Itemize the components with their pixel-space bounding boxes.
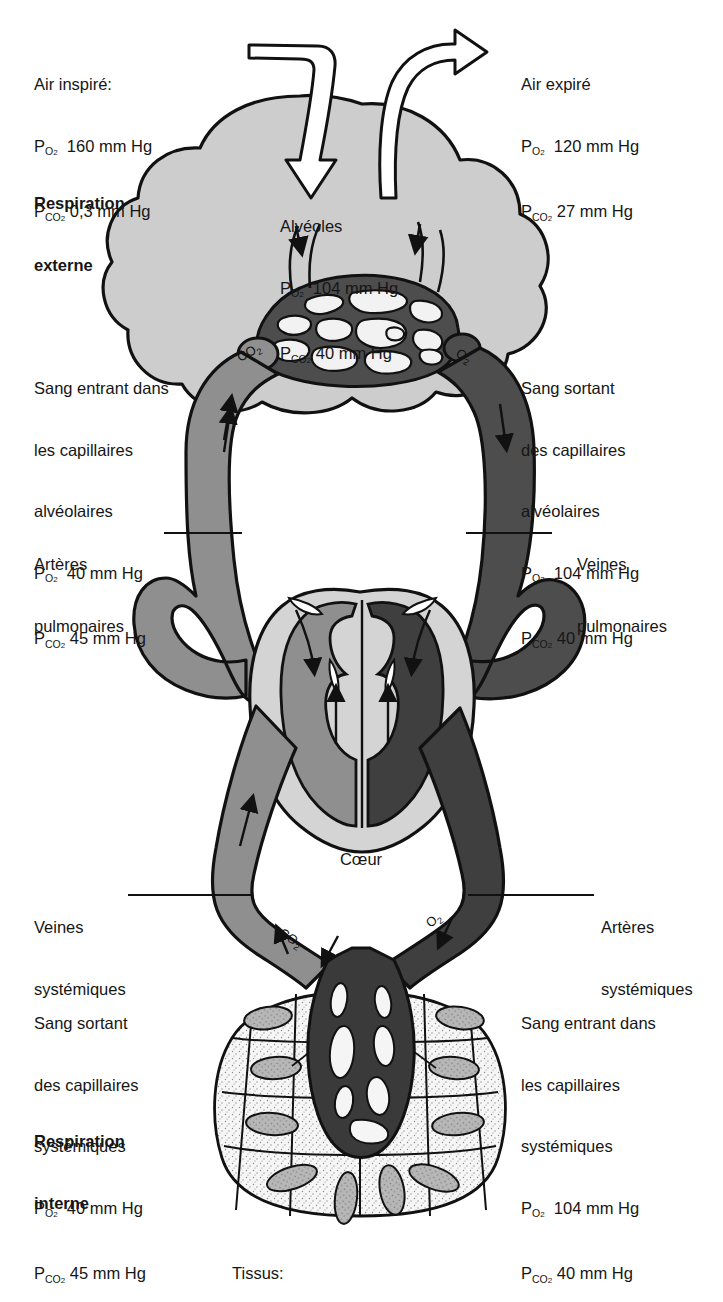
air-expire-po2: PO2 120 mm Hg xyxy=(521,136,639,161)
ses-line2: les capillaires xyxy=(521,1075,656,1096)
diagram-canvas: CO2 O2 CO2 O2 Air inspiré: PO2 160 mm Hg… xyxy=(0,0,723,1302)
sea-line1: Sang entrant dans xyxy=(34,378,169,399)
label-veines-pulmonaires: Veines pulmonaires xyxy=(577,513,667,677)
label-tissus: Tissus: PO2 inférieure à 40 mm Hg PCO2 s… xyxy=(232,1222,440,1302)
tissue-cells-cluster xyxy=(215,936,506,1225)
ssa-line1: Sang sortant xyxy=(521,378,639,399)
sss-line1: Sang sortant xyxy=(34,1013,146,1034)
label-coeur: Cœur xyxy=(311,808,411,911)
respiration-externe-line1: Respiration xyxy=(34,193,125,214)
label-respiration-interne: Respiration interne xyxy=(34,1090,125,1254)
alveoles-pco2: PCO2 40 mm Hg xyxy=(280,343,398,368)
veines-sys-line1: Veines xyxy=(34,917,126,938)
ses-po2: PO2 104 mm Hg xyxy=(521,1198,656,1223)
alveoles-po2: PO2 104 mm Hg xyxy=(280,278,398,303)
label-arteres-pulmonaires: Artères pulmonaires xyxy=(34,513,124,677)
respiration-interne-line1: Respiration xyxy=(34,1131,125,1152)
alveoles-title: Alvéoles xyxy=(280,216,398,237)
label-respiration-externe: Respiration externe xyxy=(34,152,125,316)
coeur-text: Cœur xyxy=(311,849,411,870)
respiration-externe-line2: externe xyxy=(34,255,125,276)
label-alveoles: Alvéoles PO2 104 mm Hg PCO2 40 mm Hg xyxy=(280,175,398,409)
sss-pco2: PCO2 45 mm Hg xyxy=(34,1263,146,1288)
air-expire-title: Air expiré xyxy=(521,74,639,95)
ssa-line2: des capillaires xyxy=(521,440,639,461)
veines-pulm-line1: Veines xyxy=(577,554,667,575)
arteres-sys-line1: Artères xyxy=(601,917,693,938)
ses-line1: Sang entrant dans xyxy=(521,1013,656,1034)
arteres-pulm-line2: pulmonaires xyxy=(34,616,124,637)
air-inspire-title: Air inspiré: xyxy=(34,74,152,95)
respiration-interne-line2: interne xyxy=(34,1193,125,1214)
label-sang-entrant-systemiques: Sang entrant dans les capillaires systém… xyxy=(521,972,656,1302)
label-air-expire: Air expiré PO2 120 mm Hg PCO2 27 mm Hg xyxy=(521,33,639,267)
arteres-pulm-line1: Artères xyxy=(34,554,124,575)
veines-pulm-line2: pulmonaires xyxy=(577,616,667,637)
ses-line3: systémiques xyxy=(521,1136,656,1157)
tissus-title: Tissus: xyxy=(232,1263,440,1284)
sea-line2: les capillaires xyxy=(34,440,169,461)
air-expire-pco2: PCO2 27 mm Hg xyxy=(521,201,639,226)
ses-pco2: PCO2 40 mm Hg xyxy=(521,1263,656,1288)
